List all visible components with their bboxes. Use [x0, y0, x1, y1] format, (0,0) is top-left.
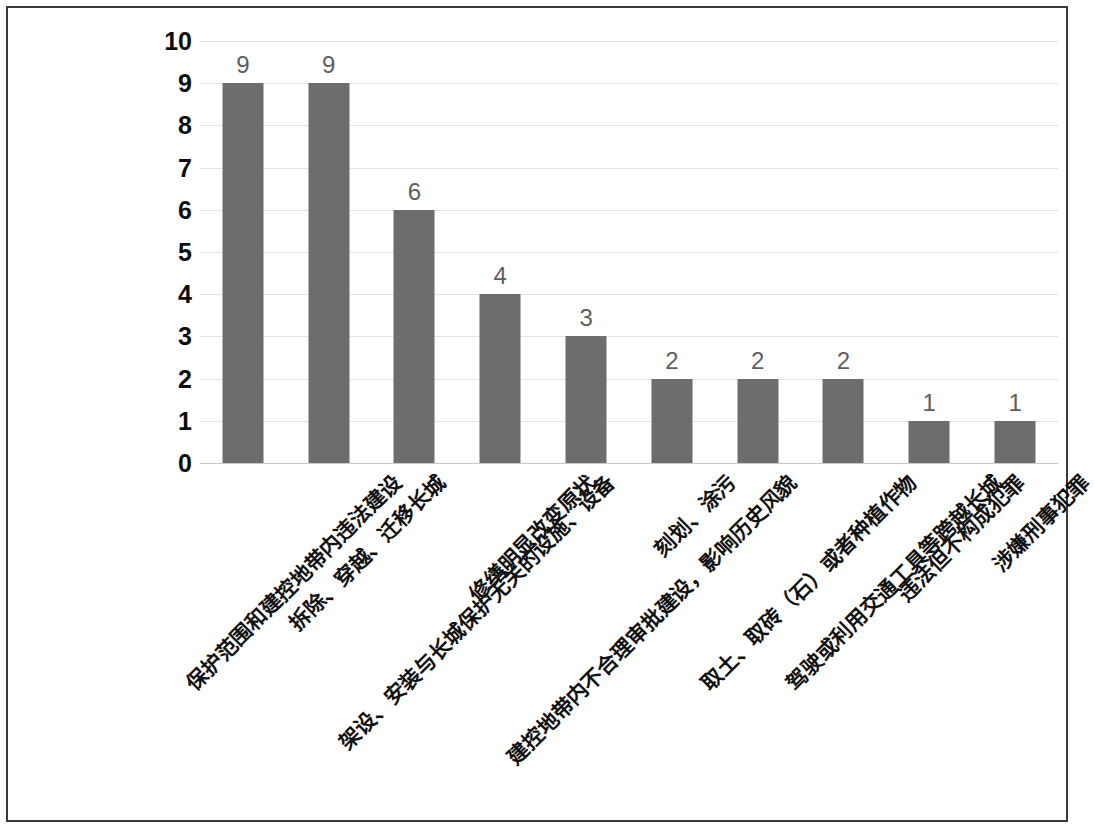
x-label-slot: 刻划、涂污 [629, 463, 715, 818]
y-tick-6: 6 [152, 197, 192, 222]
bar-slot: 9 [286, 41, 372, 463]
bar-slot: 3 [543, 41, 629, 463]
bar-value-label: 1 [923, 391, 936, 415]
bar-value-label: 2 [665, 349, 678, 373]
bar-value-label: 6 [408, 180, 421, 204]
y-tick-5: 5 [152, 240, 192, 265]
y-tick-8: 8 [152, 113, 192, 138]
y-tick-9: 9 [152, 71, 192, 96]
x-axis-label: 涉嫌刑事犯罪 [989, 471, 1094, 576]
chart-frame: 10 9 8 7 6 5 4 3 2 1 0 9964322211 保护范围和建… [6, 6, 1068, 822]
x-label-slot: 拆除、穿越、迁移长城 [286, 463, 372, 818]
bar-value-label: 9 [322, 53, 335, 77]
bar-slot: 2 [801, 41, 887, 463]
bar[interactable] [823, 379, 864, 463]
bar-value-label: 2 [837, 349, 850, 373]
y-tick-3: 3 [152, 324, 192, 349]
y-tick-10: 10 [152, 29, 192, 54]
y-tick-7: 7 [152, 155, 192, 180]
x-label-slot: 违法但不构成犯罪 [886, 463, 972, 818]
x-label-slot: 驾驶或利用交通工具等跨越长城 [801, 463, 887, 818]
y-axis: 10 9 8 7 6 5 4 3 2 1 0 [140, 41, 192, 463]
bar[interactable] [480, 294, 521, 463]
bar-slot: 1 [972, 41, 1058, 463]
x-label-slot: 取土、取砖（石）或者种植作物 [715, 463, 801, 818]
x-axis-category-labels: 保护范围和建控地带内违法建设拆除、穿越、迁移长城架设、安装与长城保护无关的设施、… [200, 463, 1058, 818]
bar[interactable] [308, 83, 349, 463]
bar-value-label: 1 [1008, 391, 1021, 415]
bar[interactable] [995, 421, 1036, 463]
bar[interactable] [222, 83, 263, 463]
bar-value-label: 4 [494, 264, 507, 288]
x-label-slot: 修缮明显改变原状 [457, 463, 543, 818]
bar-value-label: 9 [236, 53, 249, 77]
bar[interactable] [566, 336, 607, 463]
bar-slot: 2 [715, 41, 801, 463]
x-label-slot: 涉嫌刑事犯罪 [972, 463, 1058, 818]
bar-slot: 9 [200, 41, 286, 463]
bar-slot: 4 [457, 41, 543, 463]
bar-slot: 1 [886, 41, 972, 463]
bar-value-label: 3 [579, 306, 592, 330]
x-label-slot: 建控地带内不合理审批建设，影响历史风貌 [543, 463, 629, 818]
bar-slot: 2 [629, 41, 715, 463]
y-tick-0: 0 [152, 451, 192, 476]
bar[interactable] [737, 379, 778, 463]
bar-value-label: 2 [751, 349, 764, 373]
bar[interactable] [651, 379, 692, 463]
x-label-slot: 架设、安装与长城保护无关的设施、设备 [372, 463, 458, 818]
bar[interactable] [394, 210, 435, 463]
y-tick-1: 1 [152, 408, 192, 433]
y-tick-4: 4 [152, 282, 192, 307]
plot-area: 9964322211 [200, 41, 1058, 463]
y-tick-2: 2 [152, 366, 192, 391]
x-label-slot: 保护范围和建控地带内违法建设 [200, 463, 286, 818]
bar[interactable] [909, 421, 950, 463]
bar-slot: 6 [372, 41, 458, 463]
